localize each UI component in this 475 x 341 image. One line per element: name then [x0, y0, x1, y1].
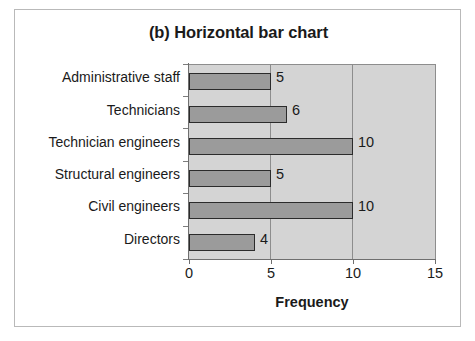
x-tick-label-10: 10	[345, 266, 361, 281]
x-axis-line	[188, 259, 436, 260]
value-label-technician-engineers: 10	[358, 135, 374, 150]
category-label-technicians: Technicians	[107, 103, 180, 117]
chart-title: (b) Horizontal bar chart	[15, 23, 462, 42]
value-label-structural-engineers: 5	[276, 167, 284, 182]
value-label-directors: 4	[260, 232, 268, 247]
x-tick-15	[435, 260, 436, 264]
value-label-administrative-staff: 5	[276, 70, 284, 85]
category-label-structural-engineers: Structural engineers	[55, 167, 180, 181]
plot-area	[189, 64, 436, 260]
y-tick-0	[183, 64, 188, 65]
bar-civil-engineers[interactable]	[189, 202, 353, 219]
x-tick-label-15: 15	[427, 266, 443, 281]
x-tick-label-0: 0	[185, 266, 193, 281]
category-label-administrative-staff: Administrative staff	[62, 70, 180, 84]
x-tick-5	[271, 260, 272, 264]
category-label-technician-engineers: Technician engineers	[48, 135, 180, 149]
bar-directors[interactable]	[189, 234, 255, 251]
y-tick-4	[183, 193, 188, 194]
x-tick-10	[353, 260, 354, 264]
category-label-civil-engineers: Civil engineers	[88, 199, 180, 213]
bar-technicians[interactable]	[189, 106, 287, 123]
bars-group	[189, 65, 435, 260]
bar-technician-engineers[interactable]	[189, 138, 353, 155]
bar-administrative-staff[interactable]	[189, 73, 271, 90]
y-tick-5	[183, 226, 188, 227]
category-label-directors: Directors	[124, 232, 180, 246]
bar-structural-engineers[interactable]	[189, 170, 271, 187]
y-tick-1	[183, 96, 188, 97]
x-tick-0	[189, 260, 190, 264]
y-tick-6	[183, 259, 188, 260]
y-tick-2	[183, 128, 188, 129]
y-tick-3	[183, 161, 188, 162]
value-label-civil-engineers: 10	[358, 199, 374, 214]
chart-figure: (b) Horizontal bar chart Administrative …	[14, 9, 461, 327]
y-axis-line	[188, 63, 189, 260]
x-tick-label-5: 5	[267, 266, 275, 281]
value-label-technicians: 6	[292, 103, 300, 118]
x-axis-title: Frequency	[188, 294, 436, 310]
